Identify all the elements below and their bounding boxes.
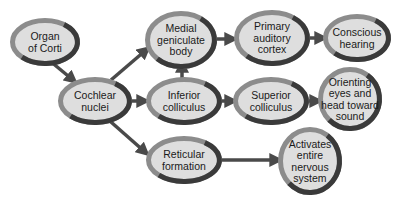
node-label-line: formation [162,160,206,172]
node-conscious-hearing: Conscioushearing [326,17,389,60]
node-label-line: Organ [30,30,59,42]
node-cochlear-nuclei: Cochlearnuclei [61,80,130,123]
arrow-cochlear-nuclei-to-reticular-formation [111,122,145,152]
node-inferior-colliculus: Inferiorcolliculus [149,80,220,123]
node-activates-entire-nervous-system: Activatesentirenervoussystem [281,130,340,193]
node-medial-geniculate-body: Medialgeniculatebody [148,14,215,67]
node-label-line: head toward [321,99,379,111]
node-label-line: hearing [339,38,374,50]
node-label-line: Activates [289,138,332,150]
node-label-line: Reticular [163,148,205,160]
nodes-layer: Organof CortiCochlearnucleiMedialgenicul… [13,13,389,193]
node-label-line: Cochlear [74,89,117,101]
node-label-line: Orienting [329,76,372,88]
node-label-line: Inferior [168,89,201,101]
node-orienting-eyes-and-head-toward-sound: Orientingeyes andhead towardsound [321,70,380,129]
auditory-pathway-diagram: Organof CortiCochlearnucleiMedialgenicul… [0,0,415,203]
node-organ-of-corti: Organof Corti [13,21,78,64]
node-label-line: Conscious [332,26,381,38]
node-label-line: Medial [166,22,197,34]
node-label-line: colliculus [163,101,206,113]
node-primary-auditory-cortex: Primaryauditorycortex [237,13,308,64]
node-label-line: nervous [291,161,328,173]
node-label-line: nuclei [81,101,108,113]
node-label-line: eyes and [329,87,372,99]
arrow-cochlear-nuclei-to-medial-geniculate-body [111,50,146,80]
node-label-line: colliculus [250,101,293,113]
node-reticular-formation: Reticularformation [149,139,220,182]
node-label-line: body [170,45,194,57]
node-label-line: auditory [253,32,291,44]
node-label-line: entire [297,149,323,161]
node-superior-colliculus: Superiorcolliculus [236,80,307,123]
node-label-line: Primary [254,20,291,32]
node-label-line: system [293,172,327,184]
node-label-line: Superior [251,89,291,101]
node-label-line: geniculate [157,34,205,46]
node-label-line: sound [336,110,365,122]
node-label-line: of Corti [28,42,62,54]
node-label-line: cortex [258,43,287,55]
